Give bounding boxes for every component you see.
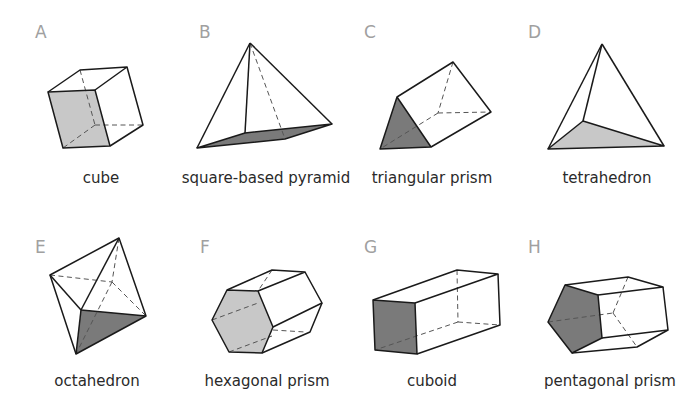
shape-g-cuboid: G cuboid (364, 237, 500, 390)
shape-letter-e: E (35, 237, 46, 257)
shape-letter-d: D (528, 22, 541, 42)
shape-caption-g: cuboid (407, 372, 457, 390)
cube-icon (48, 67, 143, 148)
shape-caption-b: square-based pyramid (182, 169, 351, 187)
shape-caption-f: hexagonal prism (204, 372, 329, 390)
pentagonal-prism-icon (548, 277, 668, 353)
shape-h-pentagonal-prism: H pentagonal prism (528, 237, 676, 390)
shape-letter-c: C (364, 22, 376, 42)
shape-letter-f: F (200, 237, 210, 257)
shape-e-octahedron: E octahedron (35, 237, 146, 390)
shape-caption-a: cube (83, 169, 120, 187)
shape-letter-h: H (528, 237, 541, 257)
triangular-prism-icon (380, 62, 491, 149)
shape-letter-g: G (364, 237, 377, 257)
shape-caption-h: pentagonal prism (544, 372, 676, 390)
octahedron-icon (50, 238, 146, 354)
square-pyramid-icon (197, 43, 332, 148)
shapes-diagram: A cube B square-based pyramid C (0, 0, 697, 404)
shape-letter-b: B (199, 22, 211, 42)
tetrahedron-icon (548, 44, 664, 149)
cuboid-icon (373, 270, 500, 354)
shape-b-square-based-pyramid: B square-based pyramid (182, 22, 351, 187)
shape-letter-a: A (35, 22, 47, 42)
shape-a-cube: A cube (35, 22, 143, 187)
hexagonal-prism-icon (212, 270, 322, 353)
shape-d-tetrahedron: D tetrahedron (528, 22, 664, 187)
shape-c-triangular-prism: C triangular prism (364, 22, 492, 187)
shape-caption-c: triangular prism (372, 169, 493, 187)
shape-caption-e: octahedron (54, 372, 139, 390)
shape-caption-d: tetrahedron (562, 169, 651, 187)
shape-f-hexagonal-prism: F hexagonal prism (200, 237, 330, 390)
